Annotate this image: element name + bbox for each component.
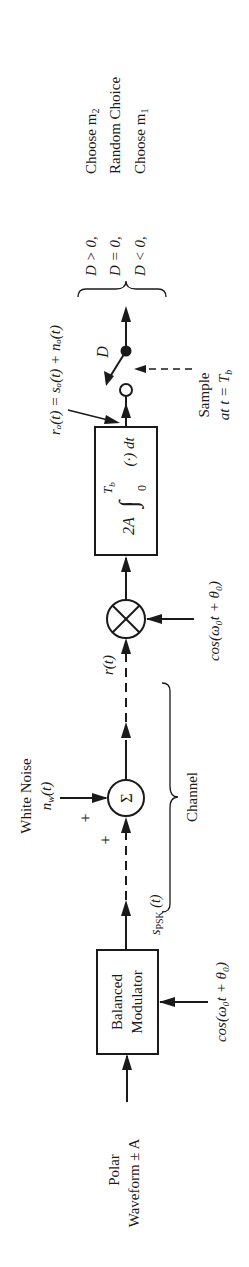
psk-receiver-block-diagram: Polar Waveform ± A Balanced Modulator co…: [0, 0, 249, 1267]
decision-result-2: Random Choice: [107, 77, 123, 174]
modulator-label-line2: Modulator: [129, 970, 145, 1033]
integrator-block: 2A ∫ Tb 0 (·) dt: [95, 427, 157, 555]
decision-result-1: Choose m2: [83, 109, 101, 174]
decision-condition-3: D < 0,: [132, 236, 148, 277]
integral-upper-limit: Tb: [100, 482, 117, 494]
multiplier-carrier-input: cos(ω₀t + θ₀): [146, 581, 223, 661]
modulator-carrier-label: cos(ω₀t + θ₀): [213, 962, 230, 1042]
received-signal-path: r(t): [100, 638, 131, 780]
channel-label: Channel: [184, 772, 200, 822]
output-expression: rₒ(t) = sₒ(t) + nₒ(t): [47, 325, 64, 435]
plus-sign-signal: +: [97, 835, 114, 844]
integrator-gain: 2A: [120, 517, 137, 535]
modulator-label-line1: Balanced: [109, 974, 125, 1030]
decision-arrow: [121, 306, 131, 346]
sample-control: Sample at t = Tb: [134, 365, 234, 420]
polar-waveform-label: Polar Waveform ± A: [106, 1139, 142, 1228]
integrand-dt: (·) dt: [121, 437, 138, 467]
input-arrow: [122, 1054, 132, 1102]
sampling-switch: D: [94, 346, 132, 387]
spsk-label: sPSK (t): [148, 894, 165, 935]
integral-sign: ∫: [114, 499, 144, 510]
mixer-to-integrator-arrow: [121, 556, 131, 600]
polar-label-line1: Polar: [106, 1154, 122, 1186]
decision-condition-1: D > 0,: [83, 236, 99, 277]
spsk-signal-path: sPSK (t) +: [97, 817, 165, 950]
modulator-carrier-input: cos(ω₀t + θ₀): [159, 962, 230, 1042]
plus-sign-noise: +: [77, 813, 94, 822]
sample-label-line1: Sample: [196, 372, 212, 417]
decision-result-3: Choose m1: [132, 109, 150, 174]
multiplier-block: [107, 600, 145, 638]
polar-label-line2: Waveform ± A: [126, 1139, 142, 1228]
noise-symbol-label: nw(t): [38, 782, 56, 810]
balanced-modulator-block: Balanced Modulator: [97, 950, 158, 1054]
decision-rules: D > 0, D = 0, D < 0, Choose m2 Random Ch…: [83, 77, 150, 277]
summing-junction: Σ: [108, 780, 144, 816]
switch-label-d: D: [94, 346, 111, 359]
multiplier-carrier-label: cos(ω₀t + θ₀): [206, 581, 223, 661]
integral-lower-limit: 0: [135, 485, 149, 491]
integrator-output-path: [120, 384, 132, 427]
sample-label-line2: at t = Tb: [216, 370, 234, 421]
white-noise-input: White Noise nw(t) +: [18, 758, 108, 834]
sigma-symbol: Σ: [117, 793, 136, 803]
white-noise-title: White Noise: [18, 758, 34, 834]
decision-brace: [78, 281, 166, 297]
r-of-t-label: r(t): [100, 655, 117, 675]
channel-brace: Channel: [162, 683, 200, 912]
decision-condition-2: D = 0,: [107, 236, 123, 277]
